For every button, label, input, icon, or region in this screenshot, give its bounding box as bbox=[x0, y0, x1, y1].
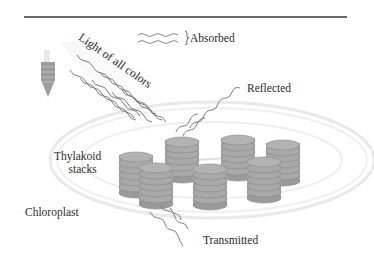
transmitted-label: Transmitted bbox=[203, 234, 258, 247]
reflected-label: Reflected bbox=[247, 82, 291, 95]
thylakoid-label-line2: stacks bbox=[54, 163, 101, 176]
absorbed-label: Absorbed bbox=[190, 32, 235, 45]
diagram-canvas bbox=[0, 0, 374, 266]
thylakoid-label-line1: Thylakoid bbox=[54, 150, 101, 163]
light-bulb-icon bbox=[41, 50, 55, 97]
light-beam bbox=[60, 40, 200, 150]
chloroplast-label: Chloroplast bbox=[25, 206, 79, 219]
thylakoid-stacks bbox=[119, 135, 300, 210]
absorbed-legend-icon bbox=[138, 31, 189, 45]
thylakoid-label: Thylakoid stacks bbox=[54, 150, 101, 176]
